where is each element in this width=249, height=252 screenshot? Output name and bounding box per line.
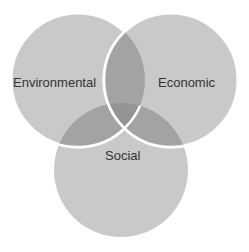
venn-diagram: Environmental Economic Social <box>0 0 249 252</box>
social-label: Social <box>105 148 141 163</box>
environmental-label: Environmental <box>13 75 96 90</box>
economic-label: Economic <box>158 75 216 90</box>
